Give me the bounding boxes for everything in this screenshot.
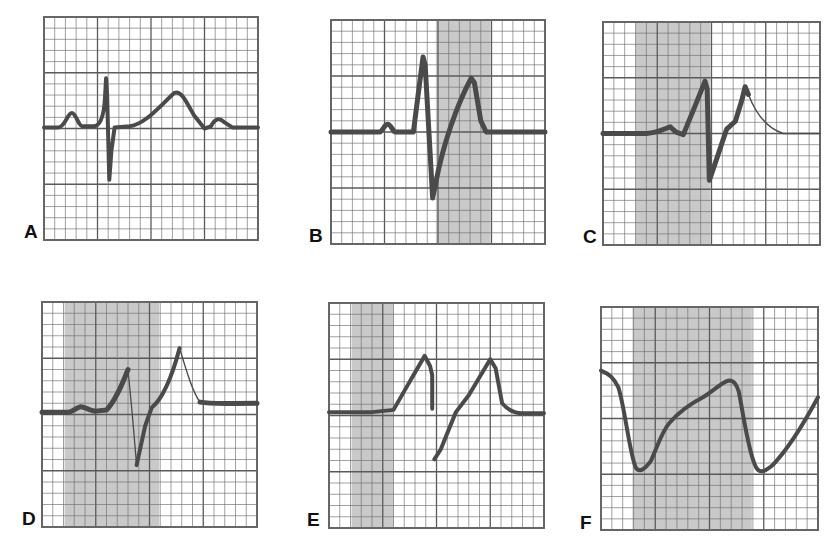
grid-lines (601, 307, 818, 530)
ecg-strip-b (331, 20, 545, 244)
grid-lines (44, 17, 258, 240)
ecg-strip-d (42, 302, 257, 527)
ecg-strip-a (44, 17, 258, 240)
ecg-panel-b (331, 20, 545, 244)
ecg-strip-c (603, 22, 820, 245)
panel-label-a: A (24, 222, 38, 241)
panel-label-f: F (580, 513, 592, 532)
ecg-panel-f (601, 307, 818, 530)
panel-label-d: D (22, 509, 36, 528)
ecg-panel-a (44, 17, 258, 240)
ecg-panel-d (42, 302, 257, 527)
panel-label-e: E (307, 510, 320, 529)
panel-label-b: B (309, 226, 323, 245)
ecg-strip-f (601, 307, 818, 530)
ecg-panel-c (603, 22, 820, 245)
ecg-strip-e (329, 303, 544, 528)
ecg-panel-e (329, 303, 544, 528)
ecg-waveform (200, 402, 257, 403)
panel-label-c: C (583, 227, 597, 246)
grid-lines (329, 303, 544, 528)
